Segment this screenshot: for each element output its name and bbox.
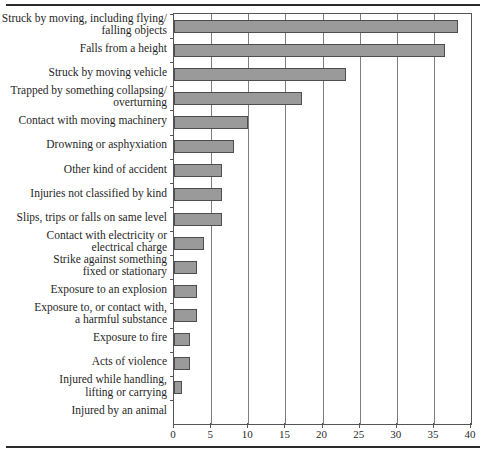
category-tick <box>170 255 174 256</box>
category-tick <box>170 231 174 232</box>
gridline-30 <box>397 14 398 424</box>
x-tick-label-0: 0 <box>153 428 193 440</box>
x-tick-label-25: 25 <box>339 428 379 440</box>
category-label-line: Exposure to fire <box>0 331 167 344</box>
bar <box>174 188 222 201</box>
category-label-line: Injuries not classified by kind <box>0 187 167 200</box>
bar <box>174 164 222 177</box>
category-label-line: lifting or carrying <box>0 386 167 399</box>
category-label: Injuries not classified by kind <box>0 187 167 200</box>
bar <box>174 213 222 226</box>
category-tick <box>170 62 174 63</box>
category-label: Contact with moving machinery <box>0 114 167 127</box>
category-label: Exposure to, or contact with,a harmful s… <box>0 301 167 326</box>
category-label-line: Struck by moving vehicle <box>0 66 167 79</box>
category-label-line: electrical charge <box>0 241 167 254</box>
bar <box>174 116 248 129</box>
category-label-line: Injured by an animal <box>0 404 167 417</box>
category-label-line: Falls from a height <box>0 42 167 55</box>
gridline-25 <box>360 14 361 424</box>
category-label: Trapped by something collapsing/overturn… <box>0 84 167 109</box>
category-tick <box>170 376 174 377</box>
bar <box>174 92 302 105</box>
category-tick <box>170 14 174 15</box>
bar <box>174 261 197 274</box>
category-label: Strike against somethingfixed or station… <box>0 253 167 278</box>
category-label: Other kind of accident <box>0 163 167 176</box>
bar <box>174 357 190 370</box>
category-label-line: Exposure to, or contact with, <box>0 301 167 314</box>
category-label: Exposure to fire <box>0 331 167 344</box>
category-label: Exposure to an explosion <box>0 283 167 296</box>
bar <box>174 44 445 57</box>
category-tick <box>170 135 174 136</box>
category-label: Injured while handling,lifting or carryi… <box>0 373 167 398</box>
x-tick-label-30: 30 <box>376 428 416 440</box>
top-rule <box>6 4 480 6</box>
x-tick-label-10: 10 <box>227 428 267 440</box>
x-tick-label-15: 15 <box>264 428 304 440</box>
category-tick <box>170 352 174 353</box>
category-label-line: Injured while handling, <box>0 373 167 386</box>
bar <box>174 20 458 33</box>
category-label-line: Strike against something <box>0 253 167 266</box>
category-label-line: Drowning or asphyxiation <box>0 138 167 151</box>
category-label: Struck by moving vehicle <box>0 66 167 79</box>
bar <box>174 333 190 346</box>
bar <box>174 68 346 81</box>
category-label-line: Contact with electricity or <box>0 229 167 242</box>
category-tick <box>170 400 174 401</box>
bar <box>174 285 197 298</box>
category-label: Injured by an animal <box>0 404 167 417</box>
category-label: Acts of violence <box>0 355 167 368</box>
category-label-line: Exposure to an explosion <box>0 283 167 296</box>
plot-area <box>173 13 472 425</box>
category-label-line: overturning <box>0 96 167 109</box>
bar <box>174 140 234 153</box>
category-tick <box>170 303 174 304</box>
category-label: Drowning or asphyxiation <box>0 138 167 151</box>
category-tick <box>170 159 174 160</box>
gridline-35 <box>434 14 435 424</box>
category-label-line: Struck by moving, including flying/ <box>0 12 167 25</box>
bottom-rule <box>6 446 480 448</box>
category-label-line: Contact with moving machinery <box>0 114 167 127</box>
category-label: Contact with electricity orelectrical ch… <box>0 229 167 254</box>
category-label: Slips, trips or falls on same level <box>0 211 167 224</box>
x-tick-label-5: 5 <box>190 428 230 440</box>
bar <box>174 309 197 322</box>
category-label-line: falling objects <box>0 24 167 37</box>
category-tick <box>170 110 174 111</box>
category-tick <box>170 207 174 208</box>
category-tick <box>170 86 174 87</box>
category-tick <box>170 328 174 329</box>
category-label-line: fixed or stationary <box>0 265 167 278</box>
bar <box>174 237 204 250</box>
category-label: Struck by moving, including flying/falli… <box>0 12 167 37</box>
category-label-line: Trapped by something collapsing/ <box>0 84 167 97</box>
category-label-line: Acts of violence <box>0 355 167 368</box>
bar-chart-figure: Struck by moving, including flying/falli… <box>0 0 486 457</box>
x-tick-label-40: 40 <box>450 428 486 440</box>
category-tick <box>170 183 174 184</box>
category-label: Falls from a height <box>0 42 167 55</box>
category-label-line: Slips, trips or falls on same level <box>0 211 167 224</box>
x-tick-label-20: 20 <box>302 428 342 440</box>
x-tick-label-35: 35 <box>413 428 453 440</box>
category-label-line: Other kind of accident <box>0 163 167 176</box>
category-tick <box>170 279 174 280</box>
bar <box>174 381 182 394</box>
category-label-line: a harmful substance <box>0 313 167 326</box>
category-tick <box>170 38 174 39</box>
